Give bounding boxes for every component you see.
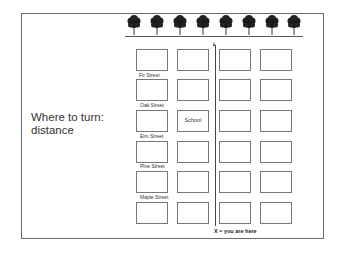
city-block [136, 110, 168, 132]
street-label-pine: Pine Street [140, 163, 165, 169]
city-block [219, 110, 251, 132]
city-block [177, 202, 209, 224]
tree-icon [196, 15, 210, 35]
city-block [260, 171, 292, 193]
tree-icon [173, 15, 187, 35]
tree-icon [219, 15, 233, 35]
city-block [136, 202, 168, 224]
city-block [219, 202, 251, 224]
street-label-fir: Fir Street [139, 72, 160, 78]
city-block [219, 171, 251, 193]
city-block [219, 49, 251, 71]
street-label-maple: Maple Street [140, 194, 168, 200]
arrow-up-icon [213, 42, 215, 46]
city-block [177, 49, 209, 71]
tree-icon [242, 15, 256, 35]
city-block [260, 79, 292, 101]
city-block [219, 79, 251, 101]
city-block [136, 79, 168, 101]
city-block [260, 141, 292, 163]
tree-line [125, 36, 303, 37]
tree-icon [150, 15, 164, 35]
tree-icon [287, 15, 301, 35]
street-label-elm: Elm Street [140, 133, 163, 139]
tree-icon [127, 15, 141, 35]
tree-icon [265, 15, 279, 35]
city-block [177, 79, 209, 101]
city-block [136, 141, 168, 163]
city-block [260, 202, 292, 224]
city-block [219, 141, 251, 163]
city-block [136, 171, 168, 193]
city-block [177, 141, 209, 163]
city-block [260, 110, 292, 132]
you-are-here-legend: X = you are here [214, 228, 257, 234]
city-block [260, 49, 292, 71]
city-block [136, 49, 168, 71]
street-label-oak: Oak Street [140, 102, 164, 108]
slide-title: Where to turn: distance [31, 111, 104, 137]
school-block: School [177, 110, 209, 132]
route-line [215, 45, 216, 226]
city-block [177, 171, 209, 193]
school-label: School [178, 117, 208, 123]
